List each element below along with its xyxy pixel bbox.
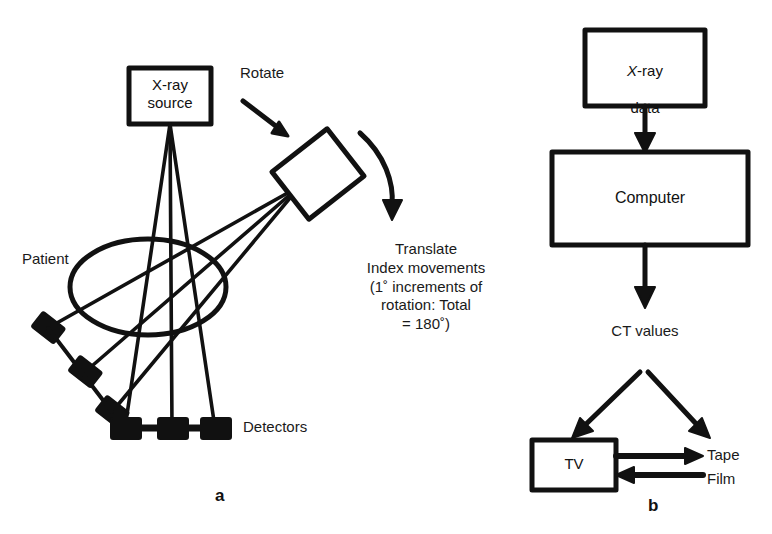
ct-values-label: CT values bbox=[601, 322, 689, 341]
xray-data-ray-text: -ray bbox=[637, 62, 663, 79]
arrow-tv-to-tape-head bbox=[685, 448, 703, 464]
arrow-tape-to-tv-head bbox=[616, 467, 634, 483]
xray-data-box-label: X-ray data bbox=[585, 44, 705, 117]
computer-box-label: Computer bbox=[552, 188, 748, 208]
ct-scanner-figure: X-ray source Rotate Patient Detectors Tr… bbox=[0, 0, 772, 534]
xray-data-x-italic: X bbox=[627, 62, 637, 79]
film-label: Film bbox=[707, 470, 735, 489]
xray-data-line2: data bbox=[630, 99, 659, 116]
tape-label: Tape bbox=[707, 446, 740, 465]
arrow-computer-to-ctvalues-head bbox=[635, 287, 655, 308]
arrow-ctvalues-to-tape-shaft bbox=[648, 372, 700, 428]
arrow-ctvalues-to-tv-shaft bbox=[582, 372, 640, 428]
panel-letter-b: b bbox=[648, 496, 658, 516]
tv-box-label: TV bbox=[532, 455, 616, 473]
